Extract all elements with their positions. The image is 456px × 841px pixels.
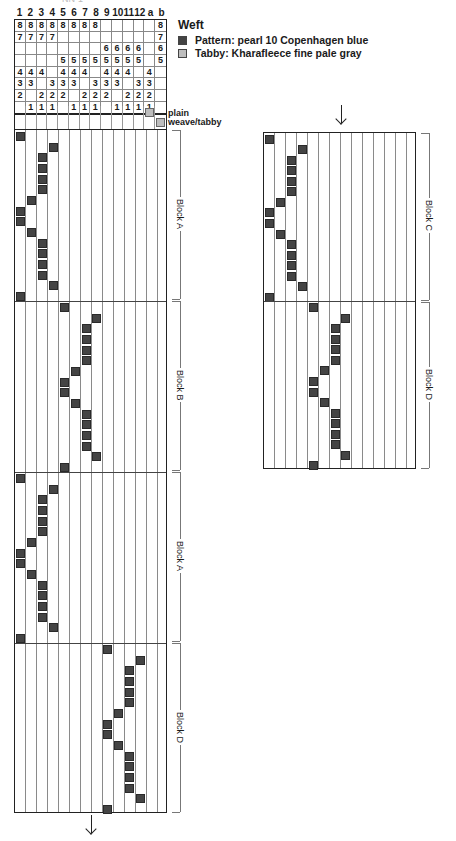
bracket-tick (172, 470, 180, 471)
column-number: 7 (80, 7, 91, 19)
pattern-pick-icon (309, 388, 318, 397)
pattern-pick-icon (331, 430, 340, 439)
pattern-pick-icon (49, 143, 58, 152)
tieup-cell: 5 (123, 55, 134, 66)
tabby-cell (101, 106, 112, 129)
pattern-pick-icon (125, 666, 134, 675)
column-number: 6 (69, 7, 80, 19)
pattern-pick-icon (125, 688, 134, 697)
tieup-cell (69, 90, 80, 101)
pattern-pick-icon (331, 409, 340, 418)
bracket-tick (172, 472, 180, 473)
tieup-cell: 5 (90, 55, 101, 66)
tieup-cell (69, 32, 80, 43)
down-arrow-head-icon (335, 113, 346, 124)
tieup-cell (80, 32, 91, 43)
pattern-pick-icon (16, 132, 25, 141)
tieup-cell: 3 (58, 78, 69, 89)
pattern-pick-icon (38, 239, 47, 248)
tieup-cell (37, 78, 48, 89)
tieup-cell: 8 (37, 20, 48, 31)
pattern-pick-icon (298, 282, 307, 291)
tieup-cell (90, 43, 101, 54)
tabby-cell (26, 106, 37, 129)
tieup-cell (134, 20, 145, 31)
tieup-cell (58, 32, 69, 43)
tieup-cell (47, 43, 58, 54)
pattern-pick-icon (38, 581, 47, 590)
pattern-pick-icon (38, 506, 47, 515)
tieup-cell (155, 67, 166, 78)
pattern-pick-icon (103, 645, 112, 654)
pattern-pick-icon (265, 219, 274, 228)
block-label: Block A (175, 197, 185, 231)
pattern-pick-icon (103, 730, 112, 739)
tieup-cell: 4 (144, 67, 155, 78)
pattern-pick-icon (38, 260, 47, 269)
tieup-row: 4444444444 (15, 67, 166, 79)
tieup-cell (26, 55, 37, 66)
pattern-pick-icon (265, 135, 274, 144)
tieup-cell: 7 (155, 32, 166, 43)
tabby-cell (112, 106, 123, 129)
bracket-tick (172, 643, 180, 644)
tabby-cell (90, 106, 101, 129)
pattern-pick-icon (287, 156, 296, 165)
block-label: Block A (175, 539, 185, 573)
pattern-pick-icon (309, 377, 318, 386)
tieup-cell: 6 (101, 43, 112, 54)
bracket-tick (172, 130, 180, 131)
column-number: 1 (14, 7, 25, 19)
pattern-pick-icon (27, 228, 36, 237)
tieup-cell (101, 20, 112, 31)
pattern-pick-icon (82, 410, 91, 419)
block-label: Block C (424, 198, 434, 233)
pattern-pick-icon (16, 549, 25, 558)
tieup-cell: 5 (134, 55, 145, 66)
tieup-cell (123, 20, 134, 31)
tieup-cell (134, 32, 145, 43)
tieup-cell: 5 (101, 55, 112, 66)
tieup-cell: 3 (101, 78, 112, 89)
pattern-pick-icon (71, 367, 80, 376)
tieup-cell: 3 (112, 78, 123, 89)
pattern-pick-icon (38, 271, 47, 280)
pattern-pick-icon (38, 613, 47, 622)
tabby-cell (123, 106, 134, 129)
pattern-pick-icon (265, 208, 274, 217)
tieup-cell: 3 (26, 78, 37, 89)
column-number: 11 (123, 7, 134, 19)
tieup-cell (26, 90, 37, 101)
tabby-swatch-icon (178, 49, 187, 58)
tieup-cell: 2 (80, 90, 91, 101)
tabby-cell (58, 106, 69, 129)
plain-weave-label: plain weave/tabby (168, 109, 222, 127)
column-number: 4 (47, 7, 58, 19)
tieup-cell: 3 (144, 78, 155, 89)
tieup-cell: 4 (69, 67, 80, 78)
column-number: a (145, 7, 156, 19)
tieup-cell (123, 78, 134, 89)
pattern-pick-icon (125, 762, 134, 771)
bracket-tick (421, 468, 429, 469)
tieup-cell: 4 (26, 67, 37, 78)
tieup-cell: 5 (69, 55, 80, 66)
tabby-cell (80, 106, 91, 129)
tieup-cell: 3 (69, 78, 80, 89)
tabby-cell (47, 106, 58, 129)
tieup-row: 555555555 (15, 55, 166, 67)
tieup-cell: 8 (69, 20, 80, 31)
pattern-pick-icon (92, 314, 101, 323)
column-number: 8 (90, 7, 101, 19)
tieup-cell: 8 (155, 20, 166, 31)
down-arrow-head-icon (85, 823, 96, 834)
pattern-pick-icon (287, 240, 296, 249)
pattern-pick-icon (276, 198, 285, 207)
tieup-cell: 4 (37, 67, 48, 78)
column-number: b (156, 7, 167, 19)
pattern-pick-icon (38, 249, 47, 258)
tieup-cell (37, 55, 48, 66)
bracket-tick (421, 300, 429, 301)
pattern-pick-icon (331, 440, 340, 449)
tieup-cell (26, 43, 37, 54)
